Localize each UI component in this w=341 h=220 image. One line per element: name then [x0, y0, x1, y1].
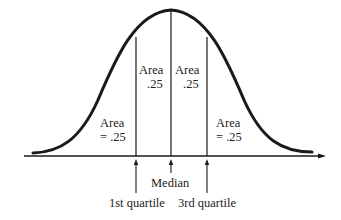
- region-2-line1: Area: [139, 63, 163, 77]
- median-label: Median: [151, 176, 189, 190]
- median-arrowhead-icon: [169, 159, 173, 165]
- region-1-label: Area = .25: [100, 116, 126, 144]
- region-4-line2: = .25: [216, 130, 242, 144]
- region-1-line2: = .25: [100, 130, 126, 144]
- region-2-label: Area .25: [139, 63, 163, 91]
- region-3-line1: Area: [175, 63, 199, 77]
- region-4-label: Area = .25: [216, 116, 242, 144]
- region-3-label: Area .25: [175, 63, 199, 91]
- q3-label: 3rd quartile: [178, 196, 236, 210]
- region-3-line2: .25: [175, 77, 199, 91]
- q1-label: 1st quartile: [109, 196, 165, 210]
- axis-arrowhead: [318, 154, 326, 159]
- bell-curve: [33, 10, 312, 153]
- region-4-line1: Area: [216, 116, 242, 130]
- region-2-line2: .25: [139, 77, 163, 91]
- q3-arrowhead-icon: [205, 159, 209, 165]
- q1-arrowhead-icon: [134, 159, 138, 165]
- region-1-line1: Area: [100, 116, 126, 130]
